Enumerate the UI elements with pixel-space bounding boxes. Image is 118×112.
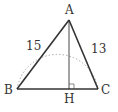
vertex-label-h: H (64, 92, 74, 106)
side-ab (17, 20, 69, 89)
vertex-label-c: C (101, 83, 110, 97)
side-label-ac: 13 (91, 42, 106, 56)
vertex-label-a: A (64, 3, 74, 17)
triangle-diagram: A B C H 15 13 (0, 0, 118, 112)
side-label-ab: 15 (26, 39, 41, 53)
vertex-label-b: B (4, 83, 13, 97)
